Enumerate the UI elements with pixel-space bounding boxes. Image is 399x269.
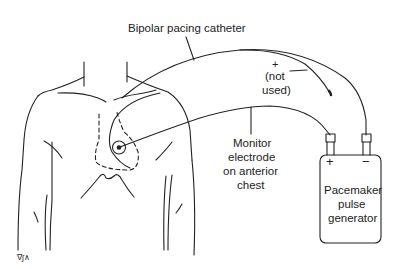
generator-label-line3: generator bbox=[328, 211, 377, 225]
catheter-intracardiac bbox=[109, 93, 160, 168]
catheter-label: Bipolar pacing catheter bbox=[128, 21, 246, 35]
bipolar-catheter-lead bbox=[122, 50, 366, 135]
monitor-electrode-label-line4: chest bbox=[237, 178, 265, 192]
monitor-electrode-lead bbox=[120, 106, 330, 147]
not-used-label-line1: (not bbox=[265, 69, 285, 83]
monitor-electrode-label-line2: electrode bbox=[228, 150, 275, 164]
generator-label-line1: Pacemaker bbox=[324, 183, 382, 197]
pacing-diagram bbox=[0, 0, 399, 269]
generator-label-line2: pulse bbox=[338, 197, 366, 211]
artist-signature: ∇ʃ∧ bbox=[17, 252, 30, 263]
generator-minus-label: − bbox=[362, 155, 370, 169]
monitor-electrode-label-line3: on anterior bbox=[223, 164, 278, 178]
monitor-electrode bbox=[113, 141, 126, 154]
not-used-label-line2: used) bbox=[262, 83, 291, 97]
generator-plus-label: + bbox=[326, 155, 334, 169]
torso-outline bbox=[18, 62, 195, 255]
monitor-electrode-label-line1: Monitor bbox=[233, 136, 271, 150]
